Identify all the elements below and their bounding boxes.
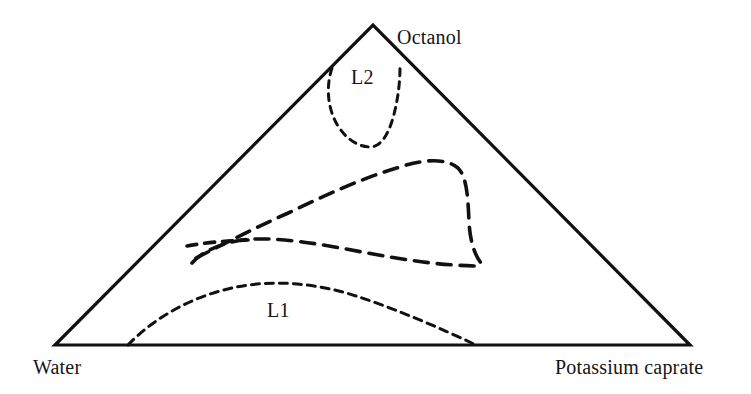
l1-boundary-curve bbox=[128, 283, 476, 345]
middle-lower-boundary-curve bbox=[192, 239, 481, 266]
vertex-label-water: Water bbox=[33, 356, 81, 379]
phase-region-label-l2: L2 bbox=[351, 66, 374, 89]
vertex-label-potassium-caprate: Potassium caprate bbox=[555, 356, 703, 379]
vertex-label-octanol: Octanol bbox=[397, 26, 462, 49]
ternary-phase-diagram: Octanol Water Potassium caprate L2 L1 bbox=[0, 0, 751, 394]
phase-region-label-l1: L1 bbox=[267, 299, 290, 322]
ternary-diagram-canvas bbox=[0, 0, 751, 394]
